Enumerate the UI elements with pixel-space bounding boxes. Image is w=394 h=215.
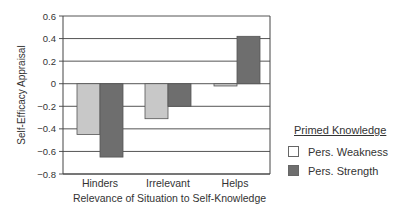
y-tick-label: −0.2: [37, 101, 56, 112]
legend-item-weakness: Pers. Weakness: [288, 142, 388, 161]
bar-strength-helps: [237, 36, 260, 83]
y-tick-label: −0.6: [37, 146, 56, 157]
y-tick-label: 0.4: [43, 33, 56, 44]
x-tick-label: Hinders: [82, 177, 118, 189]
x-tick-label: Helps: [222, 177, 249, 189]
y-tick-label: −0.4: [37, 123, 56, 134]
y-tick-label: 0: [51, 78, 56, 89]
swatch-strength: [288, 165, 299, 176]
legend-item-strength: Pers. Strength: [288, 161, 388, 180]
bar-chart: 0.60.40.20−0.2−0.4−0.6−0.8HindersIrrelev…: [0, 0, 394, 215]
legend-title: Primed Knowledge: [288, 124, 388, 136]
bar-weakness-irrelevant: [145, 84, 168, 119]
y-axis-label: Self-Efficacy Appraisal: [16, 45, 27, 144]
swatch-weakness: [288, 146, 299, 157]
y-tick-label: −0.8: [37, 169, 56, 180]
y-tick-label: 0.2: [43, 56, 56, 67]
bar-weakness-hinders: [77, 84, 100, 135]
bar-strength-irrelevant: [168, 84, 191, 107]
legend: Primed Knowledge Pers. Weakness Pers. St…: [288, 124, 388, 180]
bar-weakness-helps: [214, 84, 237, 86]
bar-strength-hinders: [100, 84, 123, 157]
x-tick-label: Irrelevant: [146, 177, 190, 189]
y-tick-label: 0.6: [43, 11, 56, 22]
x-axis-label: Relevance of Situation to Self-Knowledge: [73, 192, 266, 204]
